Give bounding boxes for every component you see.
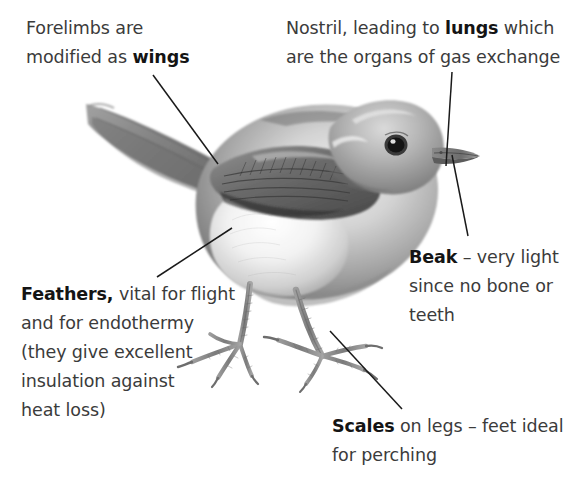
scales-keyword: Scales xyxy=(332,416,394,436)
forelimbs-line1: Forelimbs are xyxy=(26,18,143,38)
feathers-line2: and for endothermy xyxy=(21,313,194,333)
nostril-keyword: lungs xyxy=(445,18,498,38)
feathers-keyword: Feathers, xyxy=(21,284,113,304)
scales-line1: on legs – feet ideal xyxy=(394,416,563,436)
leader-line-scales xyxy=(330,331,402,409)
feathers-line1: vital for flight xyxy=(113,284,235,304)
beak-line2: since no bone or xyxy=(409,276,553,296)
beak-keyword: Beak xyxy=(409,247,457,267)
nostril-line1-post: which xyxy=(498,18,554,38)
feathers-line5: heat loss) xyxy=(21,400,106,420)
front-foot xyxy=(264,337,382,392)
feathers-line3: (they give excellent xyxy=(21,342,192,362)
nostril-lungs-label: Nostril, leading to lungs whichare the o… xyxy=(286,14,582,72)
nostril-mark xyxy=(439,151,442,154)
nostril-line1-pre: Nostril, leading to xyxy=(286,18,445,38)
forelimbs-wings-label: Forelimbs aremodified as wings xyxy=(26,14,276,72)
leader-line-beak xyxy=(452,155,468,236)
scales-line2: for perching xyxy=(332,445,437,465)
beak-line1: – very light xyxy=(457,247,559,267)
figure-canvas: Forelimbs aremodified as wings Nostril, … xyxy=(0,0,586,479)
scales-label: Scales on legs – feet idealfor perching xyxy=(332,412,582,470)
feathers-line4: insulation against xyxy=(21,371,175,391)
forelimbs-line2: modified as xyxy=(26,47,132,67)
bird-beak xyxy=(432,147,480,164)
forelimbs-keyword: wings xyxy=(132,47,189,67)
beak-line3: teeth xyxy=(409,305,455,325)
feathers-label: Feathers, vital for flightand for endoth… xyxy=(21,280,261,425)
nostril-line2: are the organs of gas exchange xyxy=(286,47,560,67)
beak-label: Beak – very lightsince no bone orteeth xyxy=(409,243,581,330)
